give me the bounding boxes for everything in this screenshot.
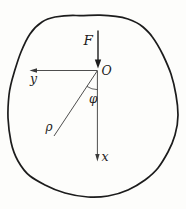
force-arrowhead-icon [95,60,101,69]
x-axis-arrow [95,71,99,162]
body-outline [8,15,178,197]
force-label: F [83,32,94,48]
origin-label: O [102,63,112,78]
y-axis-label: y [29,71,38,86]
x-axis-label: x [102,149,109,164]
x-axis-arrowhead-icon [95,154,99,162]
y-axis-arrow [30,68,98,72]
force-arrow [95,31,101,69]
force-on-body-diagram: F O y x ρ φ [0,0,186,209]
phi-angle-label: φ [89,92,98,106]
phi-angle-arc [87,86,98,89]
rho-label: ρ [45,120,53,134]
figure-canvas: F O y x ρ φ [0,0,186,209]
